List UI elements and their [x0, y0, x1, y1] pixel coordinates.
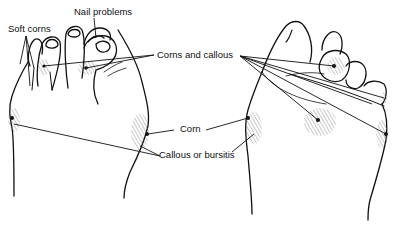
- label-soft-corns: Soft corns: [8, 24, 51, 34]
- foot-illustration: [0, 0, 395, 228]
- label-corn: Corn: [180, 124, 201, 134]
- foot-problems-diagram: Soft corns Nail problems Corns and callo…: [0, 0, 395, 228]
- label-corns-and-callous: Corns and callous: [157, 50, 233, 60]
- leader-lines: [14, 18, 386, 156]
- left-foot-lesion-dots: [10, 64, 149, 136]
- label-nail-problems: Nail problems: [74, 7, 132, 17]
- label-callous-or-bursitis: Callous or bursitis: [159, 150, 235, 160]
